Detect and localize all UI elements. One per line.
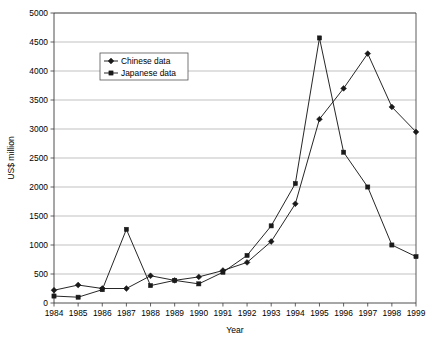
- x-tick-label: 1988: [141, 308, 160, 318]
- legend-label: Japanese data: [121, 68, 176, 78]
- x-tick-label: 1999: [407, 308, 426, 318]
- y-tick-label: 500: [34, 269, 48, 279]
- x-tick-label: 1998: [383, 308, 402, 318]
- data-point: [100, 288, 104, 292]
- gridlines-group: [54, 13, 416, 274]
- series-1: [51, 51, 419, 293]
- y-tick-label: 3500: [29, 95, 48, 105]
- data-point: [245, 253, 249, 257]
- legend[interactable]: Chinese dataJapanese data: [100, 53, 188, 80]
- legend-marker-square: [109, 71, 113, 75]
- y-tick-label: 3000: [29, 124, 48, 134]
- x-tick-label: 1997: [358, 308, 377, 318]
- y-tick-label: 1000: [29, 240, 48, 250]
- data-point: [52, 294, 56, 298]
- data-point: [317, 36, 321, 40]
- x-axis-title: Year: [226, 325, 244, 335]
- data-point: [390, 243, 394, 247]
- x-tick-label: 1996: [334, 308, 353, 318]
- y-tick-label: 0: [43, 298, 48, 308]
- data-point: [124, 286, 130, 292]
- data-point: [148, 284, 152, 288]
- chart-container: 0500100015002000250030003500400045005000…: [0, 0, 427, 341]
- data-point: [414, 255, 418, 259]
- data-point: [124, 227, 128, 231]
- data-point: [365, 51, 371, 57]
- x-tick-label: 1991: [214, 308, 233, 318]
- data-point: [269, 224, 273, 228]
- data-point: [197, 282, 201, 286]
- data-point: [292, 201, 298, 207]
- line-chart: 0500100015002000250030003500400045005000…: [0, 0, 427, 341]
- data-point: [293, 181, 297, 185]
- y-tick-label: 4500: [29, 37, 48, 47]
- y-tick-label: 5000: [29, 8, 48, 18]
- data-point: [366, 185, 370, 189]
- x-tick-label: 1995: [310, 308, 329, 318]
- x-tick-label: 1984: [45, 308, 64, 318]
- data-point: [76, 295, 80, 299]
- y-axis-ticks: [51, 13, 55, 303]
- x-axis-tick-labels: 1984198519861987198819891990199119921993…: [45, 308, 426, 318]
- x-tick-label: 1994: [286, 308, 305, 318]
- y-axis-title: US$ million: [6, 136, 16, 180]
- data-point: [221, 270, 225, 274]
- data-point: [196, 274, 202, 280]
- y-tick-label: 2000: [29, 182, 48, 192]
- x-tick-label: 1989: [165, 308, 184, 318]
- y-tick-label: 1500: [29, 211, 48, 221]
- y-tick-label: 2500: [29, 153, 48, 163]
- series-line: [54, 54, 416, 291]
- data-point: [342, 150, 346, 154]
- x-tick-label: 1990: [189, 308, 208, 318]
- data-point: [75, 282, 81, 288]
- y-tick-label: 4000: [29, 66, 48, 76]
- x-tick-label: 1992: [238, 308, 257, 318]
- x-tick-label: 1993: [262, 308, 281, 318]
- x-axis-ticks: [54, 303, 416, 307]
- y-axis-tick-labels: 0500100015002000250030003500400045005000: [29, 8, 48, 308]
- x-tick-label: 1986: [93, 308, 112, 318]
- legend-label: Chinese data: [121, 56, 171, 66]
- data-point: [51, 287, 57, 293]
- x-tick-label: 1987: [117, 308, 136, 318]
- data-point: [173, 278, 177, 282]
- x-tick-label: 1985: [69, 308, 88, 318]
